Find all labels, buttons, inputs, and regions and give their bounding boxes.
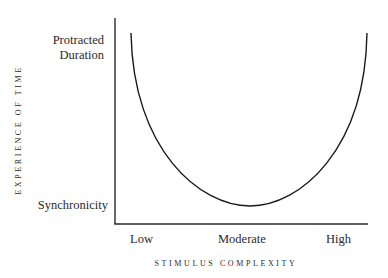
y-tick-synchronicity: Synchronicity bbox=[14, 198, 108, 213]
y-tick-line1: Protracted bbox=[20, 33, 104, 48]
u-curve bbox=[131, 33, 367, 206]
x-tick-high: High bbox=[326, 232, 351, 247]
y-tick-protracted-duration: Protracted Duration bbox=[20, 33, 104, 63]
x-axis-title: STIMULUS COMPLEXITY bbox=[0, 259, 388, 268]
x-tick-moderate: Moderate bbox=[218, 232, 266, 247]
x-tick-low: Low bbox=[130, 232, 153, 247]
y-tick-line2: Duration bbox=[20, 48, 104, 63]
y-axis-title: EXPERIENCE OF TIME bbox=[14, 65, 23, 194]
